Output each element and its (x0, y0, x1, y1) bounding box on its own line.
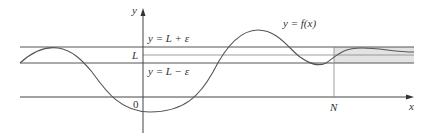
n-label: N (329, 101, 338, 113)
lower-bound-label: y = L − ε (147, 65, 190, 77)
origin-label: 0 (133, 98, 139, 110)
function-curve (20, 30, 414, 112)
curve-label: y = f(x) (282, 17, 316, 30)
x-axis-arrow-icon (406, 95, 414, 100)
y-axis-arrow-icon (141, 8, 146, 16)
upper-bound-label: y = L + ε (147, 32, 190, 44)
y-axis-label: y (131, 4, 137, 16)
limit-label: L (131, 49, 138, 61)
x-axis-label: x (408, 100, 414, 112)
limit-diagram: y x 0 y = f(x) y = L + ε L y = L − ε N (0, 0, 431, 139)
